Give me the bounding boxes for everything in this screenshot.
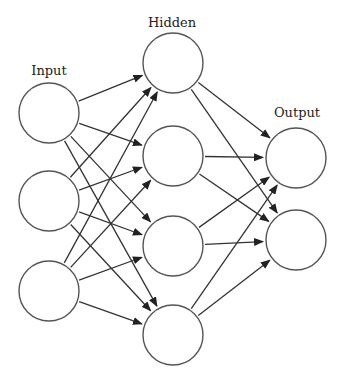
edge-input3-hidden3: [79, 257, 142, 280]
edge-hidden3-output1: [199, 177, 269, 227]
edge-input2-hidden4: [71, 224, 151, 310]
hidden-node-2: [143, 126, 203, 186]
edge-hidden3-output2: [205, 242, 263, 245]
hidden-node-4: [143, 305, 203, 365]
edge-hidden1-output2: [191, 89, 277, 213]
edge-hidden2-output2: [199, 174, 268, 221]
edge-input3-hidden4: [79, 302, 142, 324]
input-layer-label: Input: [31, 63, 67, 78]
edge-input3-hidden2: [71, 180, 151, 267]
edge-input1-hidden2: [79, 123, 142, 145]
output-node-1: [266, 128, 326, 188]
hidden-node-3: [143, 216, 203, 276]
edge-hidden4-output2: [198, 260, 270, 315]
edge-hidden2-output1: [205, 157, 263, 158]
input-node-1: [19, 83, 79, 143]
hidden-node-1: [143, 33, 203, 93]
hidden-layer-label: Hidden: [148, 15, 197, 30]
input-node-3: [19, 261, 79, 321]
edge-hidden1-output1: [198, 83, 270, 138]
edge-input1-hidden1: [79, 75, 143, 101]
edge-input2-hidden1: [70, 88, 151, 178]
connections: [64, 75, 277, 324]
input-node-2: [19, 171, 79, 231]
nodes: [19, 33, 326, 365]
output-node-2: [266, 210, 326, 270]
output-layer-label: Output: [274, 105, 321, 120]
edge-hidden4-output1: [191, 185, 277, 309]
neural-network-diagram: Input Hidden Output: [0, 0, 342, 382]
